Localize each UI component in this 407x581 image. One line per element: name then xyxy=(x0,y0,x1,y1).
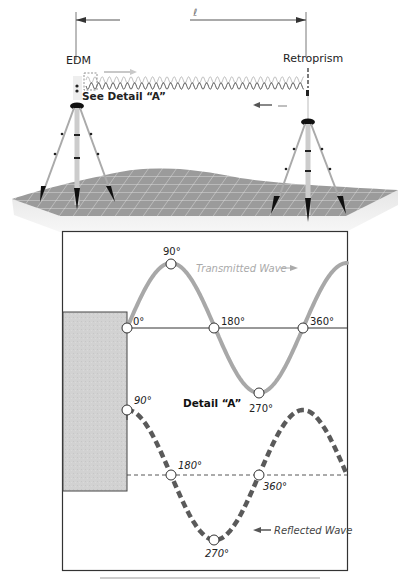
rx-point-180 xyxy=(166,470,176,480)
detail-a-panel: 0° 90° 180° 270° 360° Transmitted Wave D… xyxy=(63,232,353,571)
transmit-arrow-icon xyxy=(130,69,137,75)
rx-point-90 xyxy=(122,405,132,415)
reflected-wave-label: Reflected Wave xyxy=(274,525,352,536)
retroprism-icon xyxy=(306,90,309,96)
rx-point-270 xyxy=(209,535,219,545)
tx-point-270 xyxy=(254,388,264,398)
arrow-right-icon xyxy=(296,17,306,23)
see-detail-a-label: See Detail “A” xyxy=(82,90,166,102)
wave-train xyxy=(84,69,304,108)
edm-instrument xyxy=(75,84,78,87)
detail-a-title: Detail “A” xyxy=(183,397,241,409)
tx-point-90 xyxy=(166,259,176,269)
tx-label-180: 180° xyxy=(221,316,245,327)
transmitted-wave-label: Transmitted Wave xyxy=(196,263,287,274)
tx-label-90: 90° xyxy=(163,246,181,257)
tx-point-360 xyxy=(298,323,308,333)
diagram-canvas: ℓ EDM Retroprism See Detail “A” xyxy=(0,0,407,581)
reflected-wave-train xyxy=(86,83,304,89)
reflect-arrow-icon xyxy=(253,102,260,108)
tx-label-270: 270° xyxy=(249,403,273,414)
tx-label-0: 0° xyxy=(133,316,144,327)
distance-dimension: ℓ xyxy=(76,7,306,60)
tx-point-180 xyxy=(209,323,219,333)
transmitted-wave-train xyxy=(86,77,304,83)
rx-label-360: 360° xyxy=(263,481,287,492)
rx-point-360 xyxy=(254,470,264,480)
tx-point-0 xyxy=(122,323,132,333)
rx-label-90: 90° xyxy=(134,395,152,406)
edm-body-block xyxy=(63,312,127,491)
edm-label: EDM xyxy=(66,54,91,67)
rx-label-180: 180° xyxy=(178,460,202,471)
retroprism-label: Retroprism xyxy=(283,52,343,65)
distance-label: ℓ xyxy=(193,7,197,18)
arrow-left-icon xyxy=(76,17,86,23)
rx-label-270: 270° xyxy=(205,548,229,559)
tx-label-360: 360° xyxy=(310,316,334,327)
